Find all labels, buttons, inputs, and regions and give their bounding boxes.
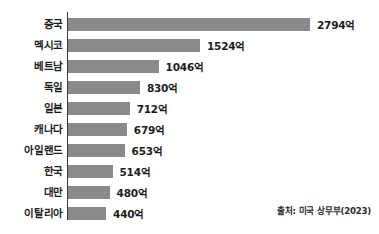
bar xyxy=(68,186,110,199)
plot-area: 중국2794억멕시코1524억베트남1046억독일830억일본712억캐나다67… xyxy=(0,0,379,234)
bar-row: 대만480억 xyxy=(0,182,379,203)
category-label: 한국 xyxy=(44,161,63,182)
category-label: 캐나다 xyxy=(34,119,63,140)
bar-value-label: 480억 xyxy=(117,185,148,200)
bar-chart: 중국2794억멕시코1524억베트남1046억독일830억일본712억캐나다67… xyxy=(0,0,379,234)
bar-value-label: 2794억 xyxy=(317,17,355,32)
bar-value-label: 712억 xyxy=(137,101,168,116)
category-label: 멕시코 xyxy=(34,35,63,56)
source-note: 출처: 미국 상무부(2023) xyxy=(277,204,371,216)
category-label: 중국 xyxy=(44,14,63,35)
bar-track: 514억 xyxy=(68,161,379,182)
bar-row: 베트남1046억 xyxy=(0,56,379,77)
bar xyxy=(68,207,106,220)
bar xyxy=(68,123,127,136)
bar-value-label: 830억 xyxy=(147,80,178,95)
bar xyxy=(68,18,310,31)
bar xyxy=(68,144,125,157)
bar-track: 653억 xyxy=(68,140,379,161)
bar-value-label: 679억 xyxy=(134,122,165,137)
bar-row: 캐나다679억 xyxy=(0,119,379,140)
category-label: 독일 xyxy=(44,77,63,98)
bar-row: 중국2794억 xyxy=(0,14,379,35)
bar xyxy=(68,60,159,73)
category-label: 일본 xyxy=(44,98,63,119)
category-label: 이탈리아 xyxy=(24,203,63,224)
bar-track: 679억 xyxy=(68,119,379,140)
bar xyxy=(68,165,113,178)
bar xyxy=(68,39,200,52)
bar-track: 712억 xyxy=(68,98,379,119)
bar-track: 2794억 xyxy=(68,14,379,35)
bar-row: 독일830억 xyxy=(0,77,379,98)
bar-value-label: 1524억 xyxy=(207,38,245,53)
category-label: 대만 xyxy=(44,182,63,203)
bar-value-label: 1046억 xyxy=(166,59,204,74)
bar-value-label: 653억 xyxy=(132,143,163,158)
bar-track: 480억 xyxy=(68,182,379,203)
bar-row: 아일랜드653억 xyxy=(0,140,379,161)
bar-track: 1524억 xyxy=(68,35,379,56)
bar-value-label: 514억 xyxy=(120,164,151,179)
bar-rows: 중국2794억멕시코1524억베트남1046억독일830억일본712억캐나다67… xyxy=(0,14,379,224)
bar-track: 830억 xyxy=(68,77,379,98)
category-label: 아일랜드 xyxy=(24,140,63,161)
bar xyxy=(68,102,130,115)
bar-value-label: 440억 xyxy=(113,206,144,221)
bar-track: 1046억 xyxy=(68,56,379,77)
bar-row: 멕시코1524억 xyxy=(0,35,379,56)
bar xyxy=(68,81,140,94)
bar-row: 일본712억 xyxy=(0,98,379,119)
bar-row: 한국514억 xyxy=(0,161,379,182)
category-label: 베트남 xyxy=(34,56,63,77)
